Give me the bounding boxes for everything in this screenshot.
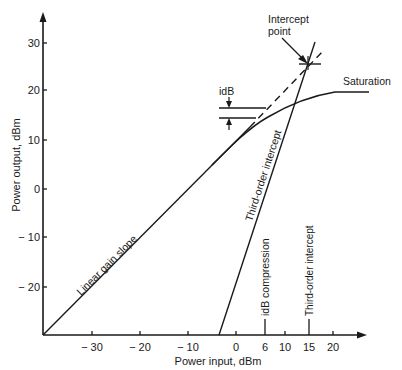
y-tick-label: 10 [28,134,40,146]
intercept-label-line1: Intercept [268,13,309,25]
y-axis: 30 20 10 0 − 10 − 20 Power output, dBm [10,12,47,335]
y-tick-label: − 10 [18,231,40,243]
linear-gain-extrapolation [250,50,324,127]
y-tick-label: 0 [34,183,40,195]
saturation-label: Saturation [343,75,391,87]
intercept-label-line2: point [268,25,291,37]
y-axis-title: Power output, dBm [10,118,22,212]
x-tick-label: − 30 [81,341,103,353]
x-tick-label: 15 [303,341,315,353]
y-tick-label: − 20 [18,281,40,293]
x-axis: − 30 − 20 − 10 0 6 10 15 20 Power input,… [43,319,367,367]
third-order-diagonal-label: Third-order intercept [242,128,283,222]
x-tick-label: 10 [279,341,291,353]
idb-down-arrow-icon [226,101,232,108]
amplifier-intercept-chart: 30 20 10 0 − 10 − 20 Power output, dBm −… [0,0,402,370]
x-tick-label: − 10 [177,341,199,353]
x-axis-arrow-icon [357,332,367,339]
idb-compression-label: idB compression [259,238,271,316]
y-tick-label: 20 [28,84,40,96]
x-tick-label: − 20 [129,341,151,353]
saturation-series: Saturation [212,75,391,165]
linear-gain-label: Linear gain slope [74,232,139,297]
x-tick-label: 20 [327,341,339,353]
third-order-vertical-label: Third-order intercept [304,225,315,316]
y-axis-arrow-icon [40,12,47,22]
idb-label: idB [219,85,234,97]
x-tick-label: 0 [233,341,239,353]
y-tick-label: 30 [28,37,40,49]
x-tick-label: 6 [262,341,268,353]
idb-up-arrow-icon [226,118,232,125]
linear-gain-series: Linear gain slope [43,50,324,335]
x-axis-title: Power input, dBm [175,355,262,367]
chart-svg: 30 20 10 0 − 10 − 20 Power output, dBm −… [0,0,402,370]
